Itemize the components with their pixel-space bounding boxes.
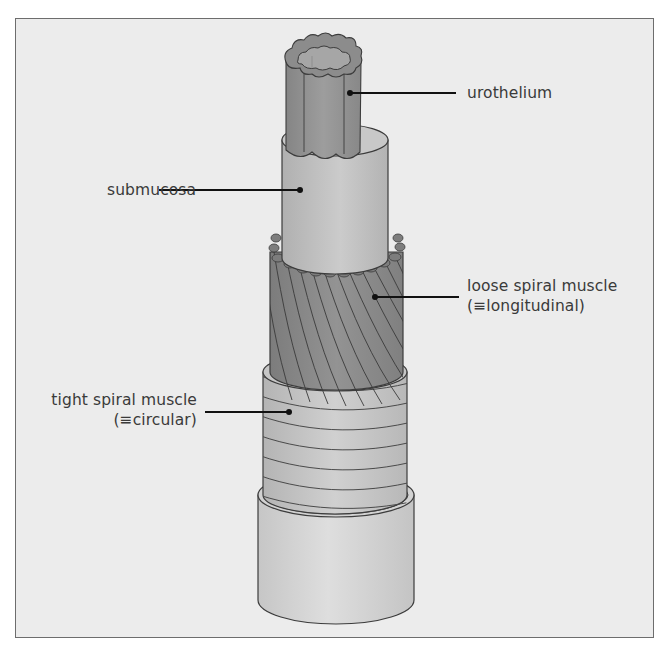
label-loose-spiral-muscle: loose spiral muscle (≡longitudinal) — [467, 276, 617, 316]
label-tight-spiral-muscle-line1: tight spiral muscle — [40, 390, 197, 410]
label-loose-spiral-muscle-line2: (≡longitudinal) — [467, 296, 617, 316]
ureter-layers-illustration — [0, 0, 664, 645]
pointer-dot-tight-spiral-muscle — [286, 409, 292, 415]
label-urothelium: urothelium — [467, 83, 552, 103]
label-loose-spiral-muscle-line1: loose spiral muscle — [467, 276, 617, 296]
label-tight-spiral-muscle: tight spiral muscle (≡circular) — [40, 390, 197, 430]
pointer-dot-submucosa — [297, 187, 303, 193]
pointer-dot-loose-spiral-muscle — [372, 294, 378, 300]
label-submucosa: submucosa — [107, 180, 196, 200]
pointer-dot-urothelium — [347, 90, 353, 96]
label-tight-spiral-muscle-line2: (≡circular) — [40, 410, 197, 430]
